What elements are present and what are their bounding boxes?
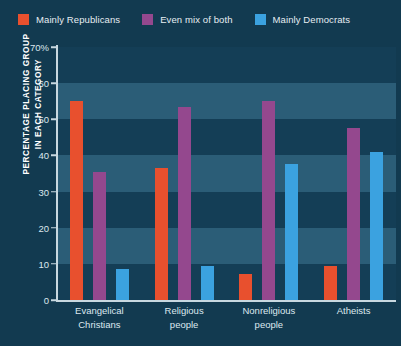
y-axis-title: PERCENTAGE PLACING GROUP IN EACH CATEGOR… [21,2,45,207]
x-axis-category-label-line: Nonreligious [227,304,312,318]
y-axis-tick-mark [51,155,56,157]
bar-group [227,47,312,300]
y-axis-tick-mark [51,227,56,229]
x-axis-labels: EvangelicalChristiansReligiouspeopleNonr… [57,304,396,346]
x-axis-line [56,300,396,302]
x-axis-category-label: Nonreligiouspeople [227,304,312,331]
bar [116,269,129,300]
x-axis-category-label-line: Christians [57,318,142,332]
bar [347,128,360,300]
bar [70,101,83,300]
chart-legend: Mainly Republicans Even mix of both Main… [0,0,401,38]
bar [178,107,191,300]
bar-group [311,47,396,300]
y-axis-tick-mark [51,299,56,301]
y-axis-tick-mark [51,191,56,193]
legend-item-even-mix: Even mix of both [142,14,232,25]
bar [239,274,252,300]
bar [93,172,106,300]
y-axis-tick-label: 20 [38,222,49,233]
x-axis-category-label-line: people [227,318,312,332]
x-axis-category-label-line: people [142,318,227,332]
x-axis-category-label-line: Evangelical [57,304,142,318]
bar-chart: Mainly Republicans Even mix of both Main… [0,0,401,346]
legend-label-democrats: Mainly Democrats [273,14,351,25]
bar [201,266,214,300]
legend-swatch-icon-democrats [255,14,266,25]
y-axis-title-line-1: PERCENTAGE PLACING GROUP [21,2,33,207]
bar [324,266,337,300]
bar-group [57,47,142,300]
y-axis-tick-label: 10 [38,258,49,269]
x-axis-category-label-line: Religious [142,304,227,318]
legend-item-mainly-democrats: Mainly Democrats [255,14,351,25]
y-axis-tick-mark [51,263,56,265]
x-axis-category-label: Religiouspeople [142,304,227,331]
x-axis-category-label: Atheists [311,304,396,318]
bar [285,164,298,300]
y-axis-tick-mark [51,46,56,48]
bar-group [142,47,227,300]
legend-label-even-mix: Even mix of both [160,14,232,25]
legend-swatch-icon-even-mix [142,14,153,25]
y-axis-tick-label: 0 [44,295,49,306]
bar [155,168,168,300]
bars-layer [57,47,396,300]
y-axis-title-line-2: IN EACH CATEGORY [33,2,45,207]
bar [370,152,383,300]
x-axis-category-label-line: Atheists [311,304,396,318]
y-axis-tick-mark [51,119,56,121]
y-axis-tick-mark [51,82,56,84]
x-axis-category-label: EvangelicalChristians [57,304,142,331]
bar [262,101,275,300]
